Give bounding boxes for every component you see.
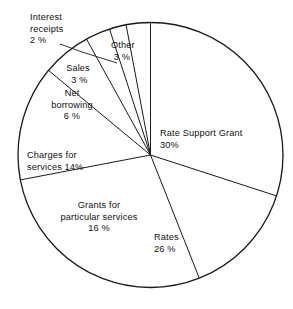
pie-chart-figure: Rate Support Grant 30% Rates 26 % Grants… xyxy=(0,0,293,309)
slice-label-sales: Sales 3 % xyxy=(52,63,104,86)
slice-label-rates: Rates 26 % xyxy=(154,232,214,255)
interest-receipts-leader-line xyxy=(60,44,117,63)
slice-label-grants-particular-services: Grants for particular services 16 % xyxy=(40,200,158,235)
slice-label-charges-for-services: Charges for services 14% xyxy=(27,150,137,173)
slice-divider-30 xyxy=(151,155,277,196)
slice-label-other: Other 3 % xyxy=(111,40,157,63)
slice-label-rate-support-grant: Rate Support Grant 30% xyxy=(160,128,282,151)
slice-label-net-borrowing: Net borrowing 6 % xyxy=(37,88,107,123)
slice-label-interest-receipts: Interest receipts 2 % xyxy=(30,12,102,47)
